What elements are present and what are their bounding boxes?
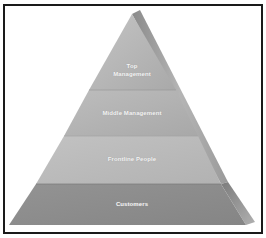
level-label-customers: Customers <box>92 200 172 208</box>
pyramid-level-top-management <box>89 14 176 90</box>
level-label-top-line1: Top <box>105 62 159 70</box>
level-label-middle-management: Middle Management <box>92 109 172 117</box>
level-label-top-management: Top Management <box>105 62 159 78</box>
level-label-top-line2: Management <box>105 70 159 78</box>
level-label-frontline-people: Frontline People <box>92 155 172 163</box>
